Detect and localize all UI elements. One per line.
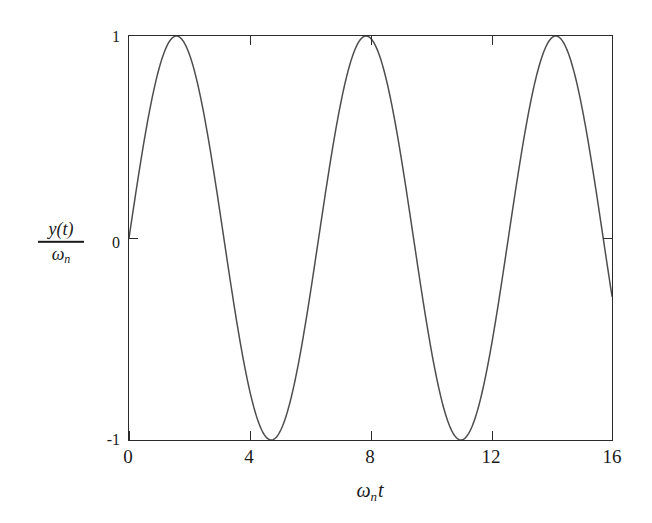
tick-y-left-0 [129,238,138,239]
sine-curve [129,36,612,440]
ytick-label-neg1: -1 [107,431,120,449]
tick-x-bottom-8 [371,431,372,440]
omega-symbol: ω [52,244,65,264]
tick-x-bottom-0 [129,431,130,440]
xtick-label-8: 8 [365,447,375,466]
x-axis-label: ωnt [356,479,383,505]
y-axis-label: y(t) ωn [38,220,84,266]
ytick-label-1: 1 [112,28,120,46]
tick-x-top-8 [371,36,372,45]
omega-subscript-n: n [64,252,70,266]
figure-sine-plot: 0 4 8 12 16 1 0 -1 y(t) ωn ωnt [0,0,652,523]
series-line-sin [129,36,612,440]
t-variable: t [378,479,384,501]
tick-x-bottom-16 [612,431,613,440]
ytick-label-group: 1 0 -1 [86,0,120,523]
xtick-label-12: 12 [482,447,501,466]
tick-y-right-0 [603,238,612,239]
ytick-label-0: 0 [112,234,120,252]
fraction-bar [38,241,84,242]
xtick-label-16: 16 [603,447,622,466]
y-axis-label-denominator: ωn [38,245,84,267]
tick-x-bottom-12 [492,431,493,440]
plot-area [128,35,613,441]
tick-x-bottom-4 [250,431,251,440]
tick-x-top-4 [250,36,251,45]
omega-subscript-n: n [371,489,378,504]
y-axis-label-numerator: y(t) [38,220,84,240]
omega-symbol: ω [356,479,370,501]
xtick-label-0: 0 [123,447,133,466]
xtick-label-4: 4 [244,447,254,466]
tick-x-top-12 [492,36,493,45]
